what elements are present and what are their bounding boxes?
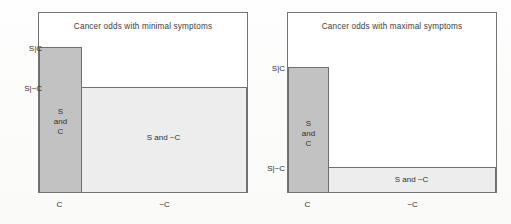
bar-not-c: S and ~C	[80, 87, 247, 192]
ytick-label-s-given-c: S|C	[6, 44, 42, 53]
bar-not-c-label: S and ~C	[328, 175, 495, 185]
xtick-label-not-c: ~C	[81, 200, 248, 209]
bar-not-c: S and ~C	[327, 167, 496, 192]
ytick-label-s-given-not-c: S|~C	[249, 164, 285, 173]
ytick-label-s-given-not-c: S|~C	[6, 84, 42, 93]
figure-two-bar-charts: Cancer odds with minimal symptoms ks in …	[0, 0, 511, 224]
chart-title: Cancer odds with maximal symptoms	[288, 22, 496, 31]
bar-c-label: S and C	[289, 119, 328, 149]
xtick-label-c: C	[38, 200, 81, 209]
xtick-label-c: C	[287, 200, 328, 209]
plot-frame: Cancer odds with minimal symptoms ks in …	[38, 12, 248, 193]
chart-title: Cancer odds with minimal symptoms	[39, 22, 247, 31]
xtick-label-not-c: ~C	[328, 200, 497, 209]
bar-c: S and C	[39, 47, 82, 192]
bar-c-label: S and C	[40, 107, 81, 137]
plot-frame: Cancer odds with maximal symptoms S and …	[287, 12, 497, 193]
bar-c: S and C	[288, 67, 329, 192]
bar-not-c-label: S and ~C	[81, 133, 246, 143]
ytick-label-s-given-c: S|C	[249, 64, 285, 73]
chart-panel-minimal-symptoms: Cancer odds with minimal symptoms ks in …	[0, 0, 256, 224]
chart-panel-maximal-symptoms: Cancer odds with maximal symptoms S and …	[255, 0, 511, 224]
